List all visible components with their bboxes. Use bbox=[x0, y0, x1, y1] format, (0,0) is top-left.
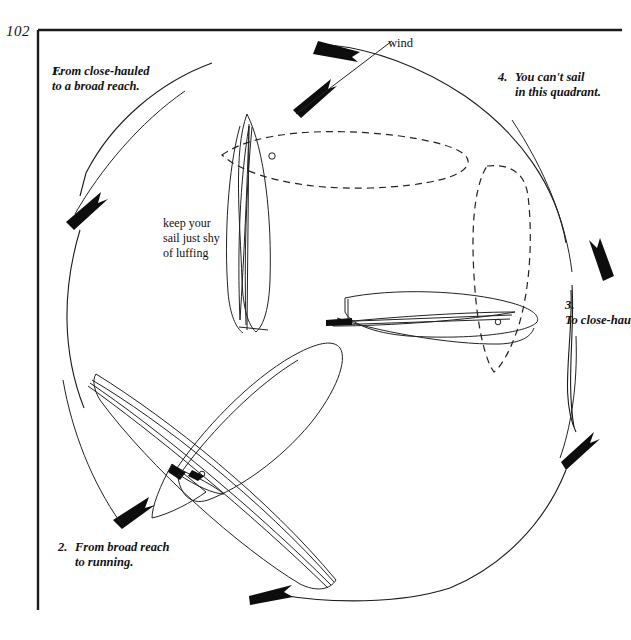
annotation-line-2: sail just shy bbox=[163, 231, 220, 245]
caption-3: 3.To close-hau bbox=[565, 298, 631, 329]
caption-4-line1: You can't sail bbox=[515, 70, 584, 84]
caption-1-index: 1. bbox=[52, 64, 69, 79]
wind-label: wind bbox=[388, 36, 413, 51]
page-number: 102 bbox=[6, 22, 30, 40]
caption-2-index: 2. bbox=[58, 540, 75, 555]
caption-4-index: 4. bbox=[498, 70, 515, 85]
caption-4-line2: in this quadrant. bbox=[515, 85, 601, 99]
caption-1-line2: to a broad reach. bbox=[52, 79, 140, 93]
caption-2-line1: From broad reach bbox=[75, 540, 169, 554]
rotation-circle bbox=[67, 45, 576, 601]
caption-2: 2.From broad reachto running. bbox=[58, 540, 169, 571]
caption-3-index: 3. bbox=[565, 298, 574, 312]
boat-running bbox=[326, 166, 538, 372]
caption-4: 4.You can't sailin this quadrant. bbox=[498, 70, 601, 101]
annotation-line-1: keep your bbox=[163, 216, 211, 230]
caption-1: 1.From close-hauledto a broad reach. bbox=[52, 64, 150, 95]
caption-3-line1: To close-hau bbox=[565, 313, 631, 327]
caption-2-line2: to running. bbox=[75, 555, 133, 569]
annotation-line-3: of luffing bbox=[163, 246, 208, 260]
caption-leaders bbox=[63, 91, 576, 522]
sail-trim-annotation: keep your sail just shy of luffing bbox=[163, 216, 220, 261]
